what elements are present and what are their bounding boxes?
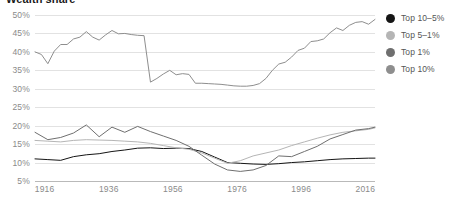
x-tick-label: 1956 [163,185,183,194]
y-tick-label: 40% [12,48,30,57]
legend-dot-icon [386,31,395,40]
plot-area: 50%45%40%35%30%25%20%15%10%5% 1916193619… [35,15,375,181]
legend-item-label: Top 5–1% [401,31,440,40]
legend-dot-icon [386,65,395,74]
y-tick-label: 25% [12,103,30,112]
y-tick-label: 35% [12,66,30,75]
y-tick-label: 15% [12,140,30,149]
x-tick-label: 1976 [227,185,247,194]
legend-item-label: Top 10–5% [401,14,444,23]
gridline [35,181,375,182]
x-tick-label: 2016 [356,185,376,194]
legend-dot-icon [386,14,395,23]
series-line [35,125,375,171]
legend-item[interactable]: Top 1% [386,44,457,61]
series-line [35,19,375,86]
y-tick-label: 30% [12,85,30,94]
chart-title: Wealth share [6,0,75,5]
x-tick-label: 1996 [291,185,311,194]
y-tick-label: 50% [12,11,30,20]
legend-item[interactable]: Top 5–1% [386,27,457,44]
y-tick-label: 10% [12,158,30,167]
legend-item-label: Top 10% [401,65,435,74]
x-tick-label: 1936 [99,185,119,194]
legend-item-label: Top 1% [401,48,430,57]
legend-item[interactable]: Top 10% [386,61,457,78]
series-lines [35,15,375,181]
chart-container: Wealth share 50%45%40%35%30%25%20%15%10%… [0,0,457,210]
legend-item[interactable]: Top 10–5% [386,10,457,27]
y-tick-label: 20% [12,121,30,130]
y-tick-label: 5% [17,177,30,186]
series-line [35,148,375,165]
y-tick-label: 45% [12,29,30,38]
legend: Top 10–5%Top 5–1%Top 1%Top 10% [386,10,457,78]
legend-dot-icon [386,48,395,57]
x-tick-label: 1916 [35,185,55,194]
